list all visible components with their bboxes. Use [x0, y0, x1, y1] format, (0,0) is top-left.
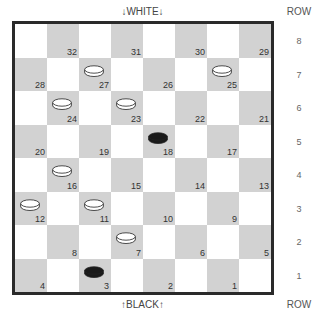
- light-square: [239, 192, 271, 226]
- row-header-top: ROW: [284, 6, 314, 17]
- row-number: 1: [284, 271, 314, 281]
- square-31[interactable]: 31: [111, 24, 143, 58]
- light-square: [111, 192, 143, 226]
- square-number: 21: [259, 115, 269, 124]
- light-square: [79, 158, 111, 192]
- square-15[interactable]: 15: [111, 158, 143, 192]
- light-square: [47, 58, 79, 92]
- square-number: 6: [200, 249, 205, 258]
- square-number: 24: [67, 115, 77, 124]
- square-number: 16: [67, 182, 77, 191]
- square-number: 1: [232, 282, 237, 291]
- light-square: [175, 192, 207, 226]
- square-14[interactable]: 14: [175, 158, 207, 192]
- row-number: 5: [284, 137, 314, 147]
- white-checker-icon[interactable]: [84, 199, 104, 211]
- square-number: 28: [35, 81, 45, 90]
- light-square: [143, 91, 175, 125]
- square-13[interactable]: 13: [239, 158, 271, 192]
- light-square: [79, 91, 111, 125]
- light-square: [239, 259, 271, 293]
- light-square: [111, 259, 143, 293]
- square-18[interactable]: 18: [143, 125, 175, 159]
- square-17[interactable]: 17: [207, 125, 239, 159]
- white-checker-icon[interactable]: [212, 65, 232, 77]
- square-number: 26: [163, 81, 173, 90]
- square-number: 11: [100, 215, 109, 224]
- light-square: [47, 125, 79, 159]
- white-side-label: ↓WHITE↓: [0, 6, 285, 17]
- white-checker-icon[interactable]: [52, 165, 72, 177]
- square-number: 14: [195, 182, 205, 191]
- row-header-bottom: ROW: [284, 299, 314, 310]
- square-25[interactable]: 25: [207, 58, 239, 92]
- row-number: 8: [284, 36, 314, 46]
- square-4[interactable]: 4: [15, 259, 47, 293]
- row-number: 7: [284, 70, 314, 80]
- white-checker-icon[interactable]: [116, 232, 136, 244]
- light-square: [111, 58, 143, 92]
- white-checker-icon[interactable]: [52, 98, 72, 110]
- square-7[interactable]: 7: [111, 225, 143, 259]
- white-checker-icon[interactable]: [20, 199, 40, 211]
- light-square: [15, 91, 47, 125]
- square-27[interactable]: 27: [79, 58, 111, 92]
- light-square: [79, 24, 111, 58]
- square-24[interactable]: 24: [47, 91, 79, 125]
- square-number: 27: [99, 81, 109, 90]
- square-22[interactable]: 22: [175, 91, 207, 125]
- light-square: [239, 125, 271, 159]
- light-square: [47, 192, 79, 226]
- square-1[interactable]: 1: [207, 259, 239, 293]
- black-checker-icon[interactable]: [84, 266, 104, 278]
- light-square: [207, 158, 239, 192]
- square-5[interactable]: 5: [239, 225, 271, 259]
- square-number: 4: [40, 282, 45, 291]
- light-square: [143, 225, 175, 259]
- white-checker-icon[interactable]: [84, 65, 104, 77]
- square-29[interactable]: 29: [239, 24, 271, 58]
- square-9[interactable]: 9: [207, 192, 239, 226]
- light-square: [143, 158, 175, 192]
- square-8[interactable]: 8: [47, 225, 79, 259]
- square-11[interactable]: 11: [79, 192, 111, 226]
- black-side-label: ↑BLACK↑: [0, 299, 285, 310]
- square-30[interactable]: 30: [175, 24, 207, 58]
- square-number: 30: [195, 48, 205, 57]
- square-6[interactable]: 6: [175, 225, 207, 259]
- square-16[interactable]: 16: [47, 158, 79, 192]
- square-20[interactable]: 20: [15, 125, 47, 159]
- square-number: 5: [264, 249, 269, 258]
- light-square: [79, 225, 111, 259]
- checkers-board: 3231302928272625242322212019181716151413…: [12, 21, 274, 295]
- row-number: 3: [284, 204, 314, 214]
- square-number: 22: [195, 115, 205, 124]
- square-number: 18: [163, 148, 173, 157]
- square-number: 17: [227, 148, 237, 157]
- light-square: [15, 225, 47, 259]
- square-number: 3: [104, 282, 109, 291]
- square-number: 32: [67, 48, 77, 57]
- square-10[interactable]: 10: [143, 192, 175, 226]
- square-number: 20: [35, 148, 45, 157]
- square-2[interactable]: 2: [143, 259, 175, 293]
- square-23[interactable]: 23: [111, 91, 143, 125]
- square-number: 23: [131, 115, 141, 124]
- white-checker-icon[interactable]: [116, 98, 136, 110]
- row-number: 4: [284, 170, 314, 180]
- black-checker-icon[interactable]: [148, 132, 168, 144]
- square-number: 15: [131, 182, 141, 191]
- square-number: 31: [131, 48, 141, 57]
- square-number: 12: [35, 215, 45, 224]
- square-3[interactable]: 3: [79, 259, 111, 293]
- square-26[interactable]: 26: [143, 58, 175, 92]
- square-number: 7: [136, 249, 141, 258]
- light-square: [207, 91, 239, 125]
- square-28[interactable]: 28: [15, 58, 47, 92]
- square-21[interactable]: 21: [239, 91, 271, 125]
- square-19[interactable]: 19: [79, 125, 111, 159]
- light-square: [111, 125, 143, 159]
- light-square: [143, 24, 175, 58]
- square-12[interactable]: 12: [15, 192, 47, 226]
- square-32[interactable]: 32: [47, 24, 79, 58]
